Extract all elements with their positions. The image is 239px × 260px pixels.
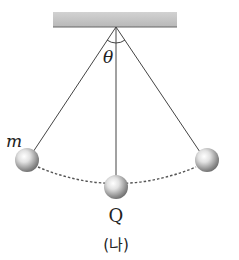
pendulum-diagram: θ m Q (나) [0,0,239,260]
string-right [116,27,200,152]
figure-caption: (나) [103,236,129,254]
angle-label: θ [103,47,113,67]
ceiling [53,12,177,27]
mass-label: m [6,131,22,151]
ball-center [104,175,128,199]
ball-right [195,148,219,172]
ball-left [15,148,39,172]
lowest-point-label: Q [109,205,124,226]
string-left [33,27,116,152]
